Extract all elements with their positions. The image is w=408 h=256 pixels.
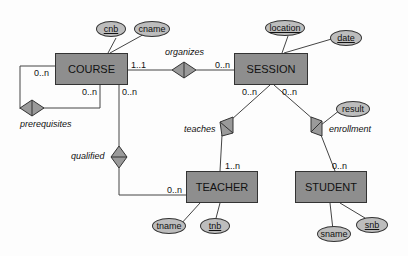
- attr-cname: cname: [134, 21, 170, 37]
- entity-student: STUDENT: [295, 171, 367, 203]
- entity-course: COURSE: [55, 53, 128, 85]
- teaches-diamond: [220, 117, 233, 136]
- rel-organizes: organizes: [165, 47, 204, 57]
- rel-prerequisites: prerequisites: [20, 119, 72, 129]
- card-course-qualified: 0..n: [122, 87, 137, 97]
- card-prereq-left: 0..n: [34, 68, 49, 78]
- rel-qualified: qualified: [71, 151, 105, 161]
- card-session-enrollment: 0..n: [282, 87, 297, 97]
- attr-result: result: [336, 101, 370, 117]
- attr-date: date: [330, 30, 362, 46]
- card-course-organizes: 1..1: [131, 60, 146, 70]
- card-student-enrollment: 0..n: [332, 161, 347, 171]
- attr-tname: tname: [152, 218, 186, 234]
- attr-cnb: cnb: [96, 21, 126, 37]
- card-prereq-bottom: 0..n: [82, 87, 97, 97]
- attr-sname: sname: [317, 226, 351, 242]
- card-teacher-qualified: 0..n: [167, 185, 182, 195]
- card-teacher-teaches: 1..n: [225, 161, 240, 171]
- er-diagram: COURSE SESSION TEACHER STUDENT cnb cname…: [0, 0, 408, 256]
- entity-session: SESSION: [234, 53, 308, 85]
- attr-tnb: tnb: [200, 218, 230, 234]
- entity-teacher: TEACHER: [186, 171, 258, 203]
- attr-snb: snb: [356, 217, 388, 233]
- attr-location: location: [265, 20, 305, 36]
- card-session-organizes: 0..n: [215, 60, 230, 70]
- rel-enrollment: enrollment: [329, 124, 371, 134]
- card-session-teaches: 0..n: [242, 87, 257, 97]
- rel-teaches: teaches: [184, 124, 216, 134]
